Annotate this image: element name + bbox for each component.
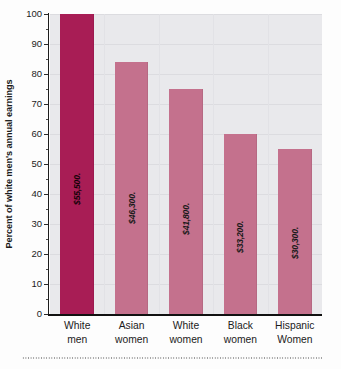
y-axis-title-text: Percent of white men's annual earnings xyxy=(4,80,14,249)
y-axis-title: Percent of white men's annual earnings xyxy=(0,14,18,314)
bar[interactable]: $33,200. xyxy=(224,134,258,314)
y-axis-tick-label: 80 xyxy=(31,68,42,80)
y-axis-tick-label: 100 xyxy=(26,8,42,20)
bar-slot: $41,800. xyxy=(169,14,203,314)
x-axis-label-line1: Black xyxy=(213,319,267,333)
x-axis-label-line2: women xyxy=(213,333,267,347)
bar-slot: $30,300. xyxy=(278,14,312,314)
y-axis-tick-label: 10 xyxy=(31,278,42,290)
bar-chart-figure: Percent of white men's annual earnings 0… xyxy=(0,0,341,369)
bar-value-label: $30,300. xyxy=(290,227,300,259)
y-axis-tick-label: 30 xyxy=(31,218,42,230)
category-separator xyxy=(104,14,105,314)
category-separator xyxy=(268,14,269,314)
plot-area: $55,500.$46,300.$41,800.$33,200.$30,300. xyxy=(50,14,322,314)
bar[interactable]: $30,300. xyxy=(278,149,312,314)
x-axis-category-label: HispanicWomen xyxy=(268,319,322,346)
bar-value-label: $55,500. xyxy=(72,173,82,205)
bar-slot: $46,300. xyxy=(115,14,149,314)
x-axis-category-label: Whitewomen xyxy=(159,319,213,346)
x-axis-category-label: Asianwomen xyxy=(104,319,158,346)
y-axis-tick-label: 20 xyxy=(31,248,42,260)
x-axis-label-line2: women xyxy=(159,333,213,347)
y-axis-tick-label: 70 xyxy=(31,98,42,110)
x-axis-labels: WhitemenAsianwomenWhitewomenBlackwomenHi… xyxy=(50,319,322,355)
x-axis-label-line1: White xyxy=(50,319,104,333)
category-separator xyxy=(159,14,160,314)
category-separator xyxy=(213,14,214,314)
bottom-divider xyxy=(22,357,322,359)
x-axis-spine xyxy=(48,314,322,316)
x-axis-label-line1: White xyxy=(159,319,213,333)
x-axis-label-line2: women xyxy=(104,333,158,347)
y-axis: 0102030405060708090100 xyxy=(20,14,49,314)
x-axis-label-line1: Hispanic xyxy=(268,319,322,333)
y-axis-tick-label: 50 xyxy=(31,158,42,170)
x-axis-category-label: Blackwomen xyxy=(213,319,267,346)
bar-value-label: $33,200. xyxy=(235,221,245,253)
bar[interactable]: $46,300. xyxy=(115,62,149,314)
bar-slot: $33,200. xyxy=(224,14,258,314)
y-axis-tick-label: 60 xyxy=(31,128,42,140)
x-axis-label-line2: men xyxy=(50,333,104,347)
x-axis-label-line2: Women xyxy=(268,333,322,347)
bar[interactable]: $55,500. xyxy=(60,14,94,314)
y-axis-tick-label: 0 xyxy=(37,308,42,320)
bar-value-label: $46,300. xyxy=(127,192,137,224)
bar-value-label: $41,800. xyxy=(181,203,191,235)
y-axis-tick-label: 40 xyxy=(31,188,42,200)
bar[interactable]: $41,800. xyxy=(169,89,203,314)
x-axis-category-label: Whitemen xyxy=(50,319,104,346)
bar-slot: $55,500. xyxy=(60,14,94,314)
x-axis-label-line1: Asian xyxy=(104,319,158,333)
y-axis-tick-label: 90 xyxy=(31,38,42,50)
